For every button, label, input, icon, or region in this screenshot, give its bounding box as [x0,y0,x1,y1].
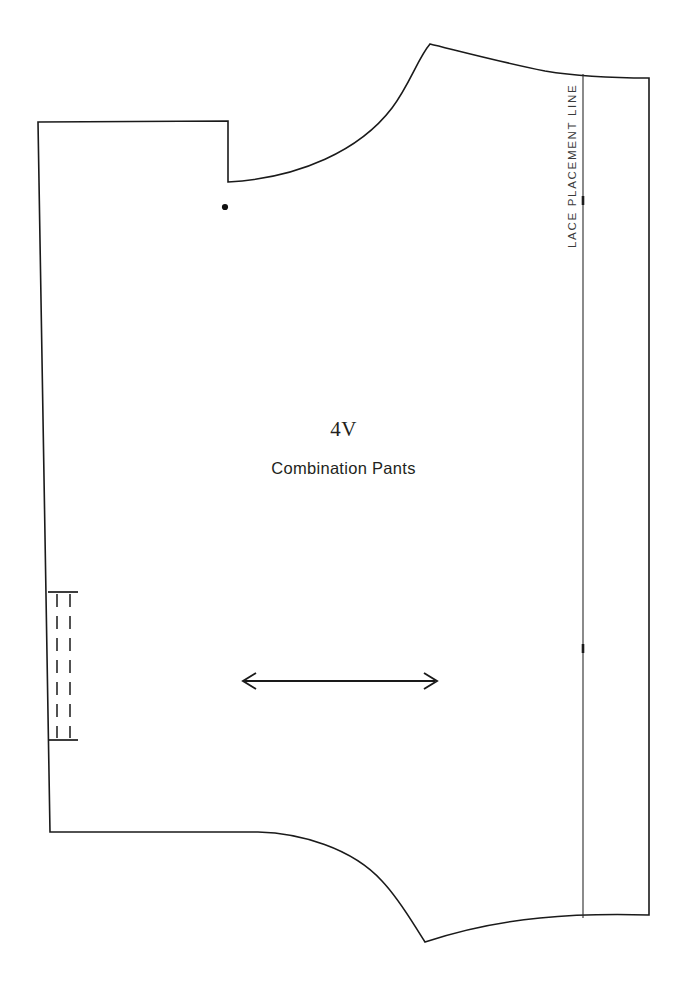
pattern-sheet: 4V Combination Pants LACE PLACEMENT LINE [0,0,687,983]
piece-name-label: Combination Pants [0,459,687,478]
lace-placement-label: LACE PLACEMENT LINE [566,84,578,248]
piece-code-label: 4V [0,417,687,442]
notch-dot [222,204,228,210]
pattern-drawing-canvas [0,0,687,983]
pattern-piece-outline [38,44,649,942]
